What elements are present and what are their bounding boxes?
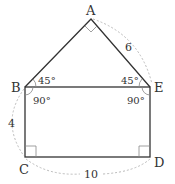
point-label-b: B [11,80,21,95]
length-label-cd: 10 [84,168,98,181]
point-label-d: D [154,155,164,170]
point-label-a: A [85,3,96,18]
angle-label-abe: 45° [38,75,56,86]
right-angle-mark-d [139,146,150,157]
right-angle-mark-c [25,146,36,157]
angle-arc-b-45 [33,79,36,87]
point-label-c: C [19,162,29,177]
angle-label-ebc: 90° [33,95,51,106]
angle-arc-e-90 [142,87,150,95]
angle-label-aeb: 45° [121,75,139,86]
point-label-e: E [154,80,164,95]
geometry-diagram: A B E C D 6 4 10 45° 45° 90° 90° [0,0,175,184]
length-label-ae: 6 [125,41,132,54]
angle-arc-b-90 [25,87,33,95]
right-angle-mark-a [85,26,97,32]
length-label-bc: 4 [8,117,15,130]
angle-arc-e-45 [139,79,142,87]
angle-label-bed: 90° [127,95,145,106]
